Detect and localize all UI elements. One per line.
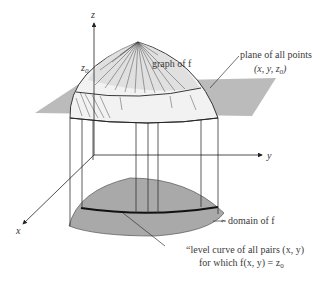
level-curve-label-line2: for which f(x, y) = z0 <box>199 257 284 270</box>
plane-label-line1: plane of all points <box>240 49 312 60</box>
z-axis-label: z <box>90 9 95 20</box>
level-curve-diagram: z y x z0 graph of f plane of all points … <box>0 0 331 289</box>
graph-of-f-label: graph of f <box>152 58 192 69</box>
x-axis-label: x <box>15 225 21 236</box>
graph-surface <box>70 42 218 123</box>
domain-label: domain of f <box>228 215 275 226</box>
level-curve-label-line1: “level curve of all pairs (x, y) <box>186 244 304 256</box>
y-axis-label: y <box>266 150 272 161</box>
z0-label: z0 <box>80 62 89 75</box>
plane-label-line2: (x, y, z0) <box>254 63 287 76</box>
